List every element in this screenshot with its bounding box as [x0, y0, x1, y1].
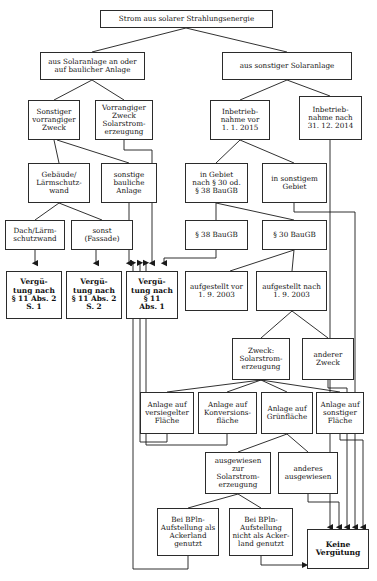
edge-gebaeude-to-dachlaerm [35, 203, 59, 220]
node-label-anlsonst: Anlage auf sonstiger Fläche [319, 401, 361, 425]
node-label-vorrzweck: Vorrangiger Zweck Solarstrom- erzeugung [98, 104, 150, 136]
node-zwecksolar: Zweck: Solarstrom- erzeugung [232, 338, 290, 380]
node-label-dachlaerm: Dach/Lärm- schutzwand [8, 227, 62, 243]
edge-p30-to-aufgnach [292, 250, 294, 271]
edge-aufgnach-to-andererzw [292, 311, 328, 338]
node-p38: § 38 BauGB [185, 220, 248, 250]
node-label-sonstgebiet: in sonstigem Gebiet [265, 175, 324, 191]
node-andausg: anderes ausgewiesen [278, 452, 338, 494]
edge-zwecksolar-to-anlversieg [167, 380, 261, 392]
node-label-verg11a2s2: Vergü- tung nach § 11 Abs. 2 S. 2 [69, 278, 119, 311]
edge-ibnvor-to-ingebiet [216, 140, 240, 163]
edge-p30-to-aufgvor [230, 250, 294, 271]
node-verg11a1: Vergü- tung nach § 11 Abs. 1 [126, 271, 178, 319]
node-baulich: aus Solaranlage an oder auf baulicher An… [40, 52, 145, 80]
node-dachlaerm: Dach/Lärm- schutzwand [5, 220, 65, 250]
node-ibnvor: Inbetrieb- nahme vor 1. 1. 2015 [210, 100, 270, 140]
node-label-bplnnicht: Bei BPln- Aufstellung nicht als Acker- l… [232, 516, 290, 548]
node-anlgruen: Anlage auf Grünfläche [261, 392, 313, 434]
node-label-andererzw: anderer Zweck [305, 351, 351, 367]
edge-sonstzweck-to-sonstbau [57, 140, 129, 163]
node-label-aufgnach: aufgestellt nach 1. 9. 2003 [259, 283, 324, 299]
node-label-ibnvor: Inbetrieb- nahme vor 1. 1. 2015 [213, 108, 267, 132]
edge-ingebiet-to-p30 [216, 203, 294, 220]
node-gebaeude: Gebäude/ Lärmschutz- wand [28, 163, 90, 203]
node-anlversieg: Anlage auf versiegelter Fläche [140, 392, 194, 434]
edge-anlsonst-to-keinerail [340, 434, 363, 527]
node-label-gebaeude: Gebäude/ Lärmschutz- wand [31, 171, 87, 195]
flowchart-diagram: Strom aus solarer Strahlungsenergieaus S… [0, 0, 377, 581]
edge-sonstige-to-ibnvor [240, 80, 287, 100]
edge-p38-to-verg11a1 [164, 250, 216, 263]
edge-ausgsolar-to-bplnacker [188, 494, 238, 508]
node-verg11a2s2: Vergü- tung nach § 11 Abs. 2 S. 2 [66, 271, 122, 319]
node-label-p30: § 30 BauGB [265, 231, 324, 239]
node-ibnnach: Inbetrieb- nahme nach 31. 12. 2014 [299, 96, 362, 140]
edge-anlgruen-to-andausg [287, 434, 308, 452]
edge-sonstzweck-to-gebaeude [54, 140, 59, 163]
node-label-sonstzweck: Sonstiger vorrangiger Zweck [31, 108, 77, 132]
node-label-andausg: anderes ausgewiesen [281, 465, 335, 481]
node-label-p38: § 38 BauGB [188, 231, 245, 239]
edge-andausg-to-keinerail [308, 494, 339, 527]
node-label-anlgruen: Anlage auf Grünfläche [264, 405, 310, 421]
edge-zwecksolar-to-anlkonv [227, 380, 261, 392]
node-vorrzweck: Vorrangiger Zweck Solarstrom- erzeugung [95, 100, 153, 140]
node-sonstbau: sonstige bauliche Anlage [101, 163, 157, 203]
node-anlkonv: Anlage auf Konversions- fläche [198, 392, 257, 434]
node-label-zwecksolar: Zweck: Solarstrom- erzeugung [235, 347, 287, 371]
edge-ibnvor-to-sonstgebiet [240, 140, 294, 163]
node-label-verg11a1: Vergü- tung nach § 11 Abs. 1 [129, 278, 175, 311]
edge-zwecksolar-to-anlsonst [261, 380, 340, 392]
node-ausgsolar: ausgewiesen zur Solarstrom- erzeugung [205, 452, 271, 494]
node-label-anlkonv: Anlage auf Konversions- fläche [201, 401, 254, 425]
node-ingebiet: in Gebiet nach § 30 od. § 38 BauGB [185, 163, 248, 203]
node-sonstgebiet: in sonstigem Gebiet [262, 163, 327, 203]
node-bplnnicht: Bei BPln- Aufstellung nicht als Acker- l… [229, 508, 293, 556]
node-aufgvor: aufgestellt vor 1. 9. 2003 [185, 271, 248, 311]
node-fassade: sonst (Fassade) [71, 220, 133, 250]
node-sonstige: aus sonstiger Solaranlage [222, 52, 352, 80]
edge-anlgruen-to-ausgsolar [238, 434, 287, 452]
node-p30: § 30 BauGB [262, 220, 327, 250]
node-label-ausgsolar: ausgewiesen zur Solarstrom- erzeugung [208, 457, 268, 489]
node-label-fassade: sonst (Fassade) [74, 227, 130, 243]
edge-zwecksolar-to-anlgruen [261, 380, 287, 392]
edge-gebaeude-to-fassade [59, 203, 102, 220]
node-label-anlversieg: Anlage auf versiegelter Fläche [143, 401, 191, 425]
node-label-baulich: aus Solaranlage an oder auf baulicher An… [43, 58, 142, 74]
edge-root-to-sonstige [186, 28, 287, 52]
edge-baulich-to-vorrzweck [92, 80, 124, 100]
node-root: Strom aus solarer Strahlungsenergie [100, 10, 273, 28]
node-label-verg11a2s1: Vergü- tung nach § 11 Abs. 2 S. 1 [9, 278, 59, 311]
node-label-sonstige: aus sonstiger Solaranlage [225, 62, 349, 70]
node-keineverg: Keine Vergütung [307, 529, 369, 569]
node-label-keineverg: Keine Vergütung [310, 541, 366, 558]
node-label-ingebiet: in Gebiet nach § 30 od. § 38 BauGB [188, 171, 245, 195]
edge-aufgnach-to-zwecksolar [261, 311, 292, 338]
node-andererzw: anderer Zweck [302, 338, 354, 380]
node-label-ibnnach: Inbetrieb- nahme nach 31. 12. 2014 [302, 106, 359, 130]
edge-bplnnicht-to-keineverg [261, 556, 305, 565]
node-anlsonst: Anlage auf sonstiger Fläche [316, 392, 364, 434]
edge-sonstige-to-ibnnach [287, 80, 330, 96]
node-aufgnach: aufgestellt nach 1. 9. 2003 [256, 271, 327, 311]
node-label-bplnacker: Bei BPln- Aufstellung als Ackerland genu… [160, 516, 216, 548]
node-verg11a2s1: Vergü- tung nach § 11 Abs. 2 S. 1 [6, 271, 62, 319]
node-label-sonstbau: sonstige bauliche Anlage [104, 171, 154, 195]
node-bplnacker: Bei BPln- Aufstellung als Ackerland genu… [157, 508, 219, 556]
edge-baulich-to-sonstzweck [54, 80, 92, 100]
node-label-root: Strom aus solarer Strahlungsenergie [103, 15, 270, 23]
node-label-aufgvor: aufgestellt vor 1. 9. 2003 [188, 283, 245, 299]
edge-root-to-baulich [92, 28, 186, 52]
node-sonstzweck: Sonstiger vorrangiger Zweck [28, 100, 80, 140]
edge-ausgsolar-to-bplnnicht [238, 494, 261, 508]
